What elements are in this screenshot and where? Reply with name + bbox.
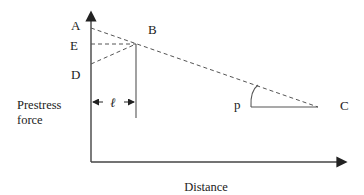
prestress-diagram: ℓ p A E D B C Prestress force Distance [0, 0, 364, 195]
y-axis-label-line1: Prestress [17, 98, 62, 112]
point-label-b: B [148, 22, 157, 37]
angle-arc [251, 85, 258, 107]
point-label-e: E [70, 38, 78, 53]
length-label: ℓ [110, 95, 116, 110]
point-label-c: C [340, 98, 349, 113]
point-label-a: A [71, 18, 81, 33]
angle-label: p [234, 97, 241, 112]
dashed-line-a-c [91, 28, 318, 107]
point-label-d: D [71, 67, 80, 82]
dashed-line-d-b [91, 44, 136, 64]
y-axis-label-line2: force [17, 113, 43, 127]
x-axis-label: Distance [184, 180, 228, 194]
